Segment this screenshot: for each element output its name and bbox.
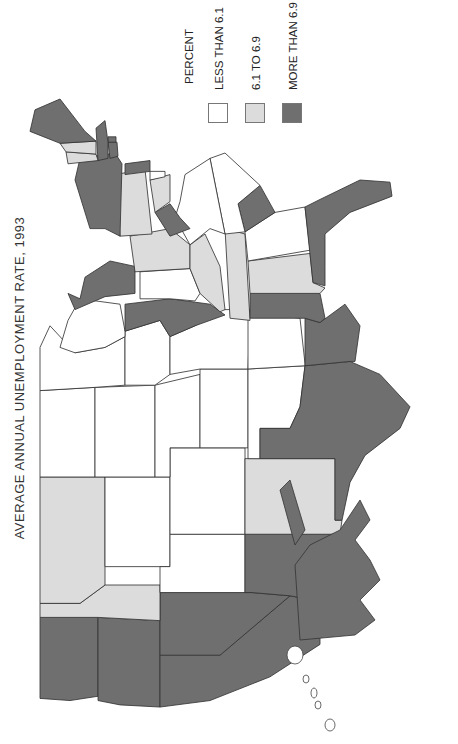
state-NY <box>75 153 122 236</box>
state-AR <box>248 312 305 369</box>
legend-swatch-mid <box>245 103 265 123</box>
state-MT <box>40 477 105 603</box>
hawaii-island <box>303 675 309 683</box>
legend-swatch-low <box>208 103 228 123</box>
state-ND <box>40 387 95 477</box>
legend-label-low: LESS THAN 6.1 <box>213 7 225 90</box>
hawaii-island <box>287 646 303 664</box>
state-CO <box>170 448 245 534</box>
state-KS <box>200 369 248 448</box>
state-ME <box>30 99 96 143</box>
hawaii-island <box>311 688 317 698</box>
legend-label-mid: 6.1 TO 6.9 <box>250 36 262 90</box>
state-OR <box>98 617 160 707</box>
state-MS <box>250 293 325 322</box>
state-MA <box>96 121 108 161</box>
legend-title: PERCENT <box>183 29 195 84</box>
state-IN <box>140 269 200 301</box>
hawaii-island <box>315 701 321 709</box>
state-UT <box>160 534 245 592</box>
legend-label-high: MORE THAN 6.9 <box>287 2 299 90</box>
state-IA <box>125 320 170 385</box>
state-NJ <box>125 161 150 175</box>
choropleth-map <box>0 0 458 744</box>
hawaii-island <box>325 719 335 731</box>
state-CT <box>108 142 118 158</box>
state-WY <box>105 477 170 567</box>
hawaii-inset <box>287 646 335 731</box>
state-WA <box>40 617 98 700</box>
state-FL <box>305 180 392 286</box>
state-SD <box>95 385 155 477</box>
state-RI <box>108 137 116 142</box>
legend-swatch-high <box>282 103 302 123</box>
